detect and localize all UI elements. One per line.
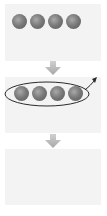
exit-arrow-line <box>85 80 95 90</box>
arrow-down-icon <box>45 134 61 148</box>
enclosure-ellipse <box>5 82 89 106</box>
step-3-panel <box>5 149 101 205</box>
diagram-canvas <box>0 0 107 216</box>
